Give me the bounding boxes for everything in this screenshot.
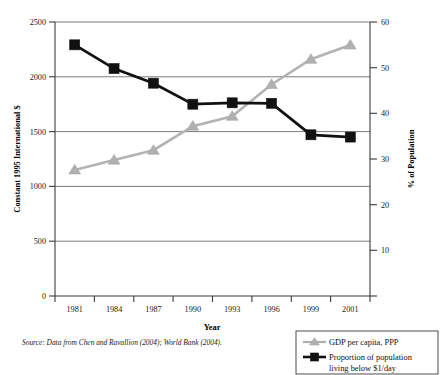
- right-ticklabel-20: 20: [381, 201, 389, 210]
- right-ticklabel-50: 50: [381, 64, 389, 73]
- left-ticklabel-1500: 1500: [30, 128, 46, 137]
- legend-label-gdp: GDP per capita, PPP: [329, 338, 399, 347]
- left-ticklabel-0: 0: [42, 292, 46, 301]
- right-ticklabel-40: 40: [381, 109, 389, 118]
- right-ticklabel-60: 60: [381, 18, 389, 27]
- left-axis-title: Constant 1995 International $: [13, 105, 22, 212]
- chart-figure: 2500 2000 1500 1000 500 0 Constant 1995 …: [0, 0, 441, 375]
- datapoint-square: [188, 99, 198, 109]
- x-axis: 1981 1984 1987 1990 1993 1996 1999 2001 …: [55, 296, 370, 332]
- legend-label-poverty-2: living below $1/day: [329, 364, 397, 373]
- x-ticklabel-1981: 1981: [67, 305, 83, 314]
- datapoint-square: [306, 130, 316, 140]
- chart-legend: GDP per capita, PPP Proportion of popula…: [296, 331, 438, 374]
- left-ticklabel-1000: 1000: [30, 182, 46, 191]
- poverty-markers: [70, 40, 356, 142]
- series-poverty-share: [70, 40, 356, 142]
- right-axis: 60 50 40 30 20 10 % of Population: [370, 18, 416, 296]
- legend-label-poverty-1: Proportion of population: [329, 353, 413, 362]
- left-ticklabel-500: 500: [34, 237, 46, 246]
- left-axis: 2500 2000 1500 1000 500 0 Constant 1995 …: [13, 18, 55, 301]
- datapoint-square: [148, 78, 158, 88]
- left-ticklabel-2000: 2000: [30, 73, 46, 82]
- x-ticklabel-2001: 2001: [342, 305, 358, 314]
- x-axis-title: Year: [204, 323, 221, 332]
- right-ticklabel-10: 10: [381, 246, 389, 255]
- datapoint-square: [109, 64, 119, 74]
- chart-svg: 2500 2000 1500 1000 500 0 Constant 1995 …: [0, 0, 441, 375]
- right-axis-title: % of Population: [407, 129, 416, 188]
- datapoint-square: [70, 40, 80, 50]
- x-ticklabel-1999: 1999: [303, 305, 319, 314]
- gdp-markers: [69, 39, 356, 174]
- datapoint-square: [345, 132, 355, 142]
- datapoint-square: [267, 98, 277, 108]
- datapoint-square: [227, 98, 237, 108]
- square-icon: [311, 353, 319, 361]
- datapoint-triangle: [344, 39, 356, 49]
- x-ticklabel-1987: 1987: [145, 305, 161, 314]
- x-ticklabel-1993: 1993: [224, 305, 240, 314]
- datapoint-triangle: [148, 145, 160, 155]
- x-ticklabel-1990: 1990: [185, 305, 201, 314]
- series-gdp-per-capita: [69, 39, 356, 174]
- source-note: Source: Data from Chen and Ravallion (20…: [22, 338, 222, 347]
- left-ticklabel-2500: 2500: [30, 18, 46, 27]
- right-ticklabel-30: 30: [381, 155, 389, 164]
- x-ticklabel-1996: 1996: [263, 305, 279, 314]
- x-ticklabel-1984: 1984: [106, 305, 122, 314]
